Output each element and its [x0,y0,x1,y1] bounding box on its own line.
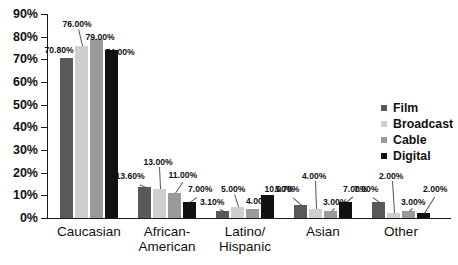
bar-value-label: 13.00% [144,158,173,167]
y-axis-tick-label: 20% [0,167,38,180]
bar[interactable] [183,202,196,218]
y-axis-tick-label: 60% [0,76,38,89]
bar-value-label: 7.00% [188,185,212,194]
bar-value-label: 5.70% [275,185,299,194]
legend-label: Digital [393,150,431,162]
legend-item[interactable]: Broadcast [381,117,453,131]
bar[interactable] [387,213,400,218]
bar-value-label: 3.00% [323,198,347,207]
y-axis-tick-label: 90% [0,8,38,21]
y-axis-tick-label: 40% [0,121,38,134]
y-axis-tick-label: 10% [0,189,38,202]
bar[interactable] [324,211,337,218]
bar[interactable] [216,211,229,218]
x-axis-category-label: Other [351,224,451,239]
y-axis-tick-label: 30% [0,144,38,157]
y-axis-tick [41,127,47,128]
x-axis-line [47,218,451,219]
y-axis-tick-label: 70% [0,53,38,66]
bar[interactable] [60,58,73,218]
y-axis-tick [41,105,47,106]
bar[interactable] [372,202,385,218]
bar[interactable] [294,205,307,218]
y-axis-tick-label: 50% [0,99,38,112]
bar[interactable] [246,209,259,218]
bar[interactable] [138,187,151,218]
bar[interactable] [417,213,430,218]
bar-value-label: 5.00% [221,185,245,194]
bar[interactable] [75,46,88,218]
legend-label: Cable [393,134,427,146]
bar[interactable] [402,211,415,218]
bar-value-label: 76.00% [63,20,92,29]
bar[interactable] [90,39,103,218]
y-axis-tick-label: 0% [0,212,38,225]
legend-swatch-icon [381,153,387,159]
legend-swatch-icon [381,137,387,143]
bar-value-label: 13.60% [116,172,145,181]
legend-label: Broadcast [393,118,453,130]
y-axis-tick [41,195,47,196]
bar[interactable] [105,50,118,218]
bar-chart: 0%10%20%30%40%50%60%70%80%90% CaucasianA… [0,0,458,265]
legend-item[interactable]: Digital [381,149,453,163]
bar-value-label: 74.00% [106,48,135,57]
bar-value-label: 2.00% [379,172,403,181]
bar-value-label: 70.80% [45,46,74,55]
y-axis-tick-label: 80% [0,31,38,44]
y-axis-tick [41,37,47,38]
bar[interactable] [309,209,322,218]
legend-item[interactable]: Film [381,101,453,115]
y-axis-tick [41,82,47,83]
bar-value-label: 11.00% [169,171,198,180]
bar-value-label: 4.00% [246,197,270,206]
y-axis-tick [41,218,47,219]
bar[interactable] [231,207,244,218]
bar-value-label: 7.00% [354,185,378,194]
bar-value-label: 4.00% [302,172,326,181]
y-axis-tick [41,173,47,174]
y-axis-tick [41,14,47,15]
bar-value-label: 2.00% [423,185,447,194]
bar[interactable] [168,193,181,218]
bar[interactable] [153,189,166,218]
bar-value-label: 79.00% [86,33,115,42]
legend-item[interactable]: Cable [381,133,453,147]
bar-value-label: 3.10% [200,198,224,207]
legend: FilmBroadcastCableDigital [381,101,453,165]
y-axis-tick [41,150,47,151]
legend-swatch-icon [381,121,387,127]
bar-value-label: 3.00% [401,198,425,207]
legend-label: Film [393,102,418,114]
legend-swatch-icon [381,105,387,111]
y-axis-tick [41,59,47,60]
